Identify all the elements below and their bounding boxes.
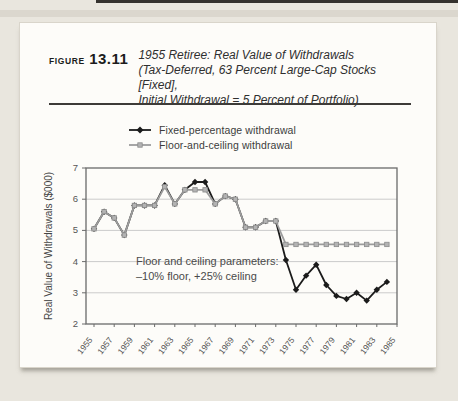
annotation-line: Floor and ceiling parameters:: [136, 255, 278, 267]
x-tick-label: 1985: [378, 335, 398, 356]
y-tick-label: 2: [73, 318, 78, 329]
figure-card: FIGURE 13.11 1955 Retiree: Real Value of…: [19, 22, 437, 368]
square-marker-icon: [223, 194, 227, 198]
square-marker-icon: [152, 203, 156, 207]
square-marker-icon: [132, 203, 136, 207]
square-marker-icon: [354, 242, 358, 246]
square-marker-icon: [344, 242, 348, 246]
y-axis: 234567: [73, 162, 86, 329]
figure-label-block: FIGURE 13.11: [49, 48, 128, 68]
square-marker-icon: [284, 242, 288, 246]
floor-and-ceiling-line-icon: [128, 140, 152, 150]
x-tick-label: 1983: [358, 335, 378, 356]
annotation-line: –10% floor, +25% ceiling: [136, 270, 257, 282]
y-tick-label: 3: [73, 287, 78, 298]
figure-title-line-1: 1955 Retiree: Real Value of Withdrawals: [138, 48, 414, 63]
legend-label-floor: Floor-and-ceiling withdrawal: [159, 139, 293, 151]
square-marker-icon: [142, 203, 146, 207]
figure-title-line-2: (Tax-Deferred, 63 Percent Large-Cap Stoc…: [138, 63, 414, 93]
figure-number: 13.11: [89, 50, 128, 67]
square-marker-icon: [193, 188, 197, 192]
x-tick-label: 1979: [317, 335, 337, 356]
square-marker-icon: [314, 242, 318, 246]
square-marker-icon: [233, 197, 237, 201]
square-marker-icon: [253, 225, 257, 229]
x-tick-label: 1965: [176, 335, 196, 356]
legend-item-floor: Floor-and-ceiling withdrawal: [128, 138, 296, 152]
square-marker-icon: [385, 242, 389, 246]
fixed-percentage-line-icon: [128, 125, 152, 135]
scan-artifact-top-strip: [96, 0, 458, 3]
diamond-marker-icon: [283, 257, 289, 263]
square-marker-icon: [122, 233, 126, 237]
x-tick-label: 1959: [115, 335, 135, 356]
square-marker-icon: [334, 242, 338, 246]
x-tick-label: 1973: [257, 335, 277, 356]
square-marker-icon: [203, 188, 207, 192]
square-marker-icon: [163, 185, 167, 189]
square-marker-icon: [173, 202, 177, 206]
square-marker-icon: [365, 242, 369, 246]
square-marker-icon: [294, 242, 298, 246]
square-marker-icon: [183, 188, 187, 192]
x-tick-label: 1975: [277, 335, 297, 356]
figure-title: 1955 Retiree: Real Value of Withdrawals …: [138, 48, 414, 108]
square-marker-icon: [324, 242, 328, 246]
square-marker-icon: [375, 242, 379, 246]
x-tick-label: 1971: [237, 335, 257, 356]
x-tick-label: 1957: [95, 335, 115, 356]
figure-header: FIGURE 13.11 1955 Retiree: Real Value of…: [49, 48, 414, 108]
x-axis: 1955195719591961196319651967196919711973…: [75, 324, 398, 356]
x-tick-label: 1969: [216, 335, 236, 356]
figure-word: FIGURE: [49, 56, 85, 66]
y-axis-title: Real Value of Withdrawals ($000): [43, 172, 54, 320]
withdrawals-line-chart: 2345671955195719591961196319651967196919…: [41, 159, 441, 367]
square-marker-icon: [112, 216, 116, 220]
y-tick-label: 5: [73, 224, 78, 235]
x-tick-label: 1963: [156, 335, 176, 356]
square-marker-icon: [243, 225, 247, 229]
figure-title-line-3: Initial Withdrawal = 5 Percent of Portfo…: [138, 93, 414, 108]
scan-artifact-band: [0, 10, 458, 17]
fixed-percentage-series: [91, 179, 390, 304]
x-tick-label: 1955: [75, 335, 95, 356]
legend-item-fixed: Fixed-percentage withdrawal: [128, 123, 296, 137]
diamond-marker-icon: [202, 179, 208, 185]
y-tick-label: 7: [73, 162, 78, 173]
square-marker-icon: [213, 202, 217, 206]
square-marker-icon: [274, 219, 278, 223]
y-tick-label: 4: [73, 256, 78, 267]
legend-label-fixed: Fixed-percentage withdrawal: [159, 124, 296, 136]
title-divider: [49, 103, 411, 105]
chart-legend: Fixed-percentage withdrawal Floor-and-ce…: [128, 123, 296, 153]
square-marker-icon: [304, 242, 308, 246]
plot-frame: [86, 168, 397, 324]
square-marker-icon: [264, 219, 268, 223]
x-tick-label: 1981: [338, 335, 358, 356]
floor-ceiling-annotation: Floor and ceiling parameters:–10% floor,…: [136, 255, 278, 282]
y-tick-label: 6: [73, 193, 78, 204]
floor-and-ceiling-series: [92, 185, 389, 247]
x-tick-label: 1967: [196, 335, 216, 356]
x-tick-label: 1977: [297, 335, 317, 356]
square-marker-icon: [92, 227, 96, 231]
x-tick-label: 1961: [136, 335, 156, 356]
square-marker-icon: [102, 209, 106, 213]
